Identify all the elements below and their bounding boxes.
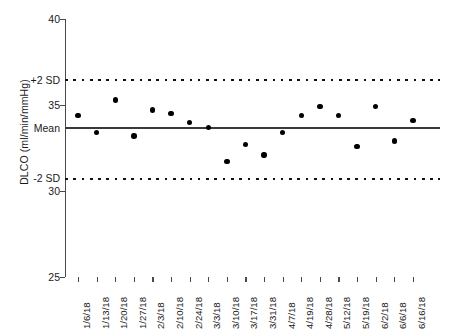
y-tick-label-35: 35 bbox=[14, 100, 60, 111]
data-point[interactable] bbox=[150, 107, 155, 112]
x-tick-label: 5/12/18 bbox=[342, 297, 352, 329]
y-axis-label-column: 40 +2 SD 35 Mean -2 SD 30 25 bbox=[14, 0, 60, 332]
data-point[interactable] bbox=[187, 120, 192, 125]
x-tick-label: 1/13/18 bbox=[101, 297, 111, 329]
x-tick-label: 6/6/18 bbox=[398, 302, 408, 329]
x-tick-label: 4/28/18 bbox=[324, 297, 334, 329]
y-tick-label-25: 25 bbox=[14, 272, 60, 283]
data-point[interactable] bbox=[373, 104, 378, 109]
data-point[interactable] bbox=[317, 104, 322, 109]
y-tick-35 bbox=[60, 105, 65, 106]
x-tick-label: 1/20/18 bbox=[119, 297, 129, 329]
x-tick-mark bbox=[320, 277, 321, 282]
data-point[interactable] bbox=[224, 159, 229, 164]
x-tick-label: 3/31/18 bbox=[268, 297, 278, 329]
x-tick-label: 3/3/18 bbox=[212, 302, 222, 329]
data-point[interactable] bbox=[280, 130, 285, 135]
x-tick-mark bbox=[134, 277, 135, 282]
x-tick-mark bbox=[190, 277, 191, 282]
x-tick-mark bbox=[97, 277, 98, 282]
y-tick-30 bbox=[60, 191, 65, 192]
x-tick-mark bbox=[208, 277, 209, 282]
x-tick-label: 2/3/18 bbox=[156, 302, 166, 329]
y-tick-40 bbox=[60, 19, 65, 20]
x-tick-label: 2/24/18 bbox=[194, 297, 204, 329]
data-point[interactable] bbox=[392, 138, 397, 143]
x-tick-mark bbox=[171, 277, 172, 282]
plot-area bbox=[65, 19, 447, 277]
data-point[interactable] bbox=[131, 133, 136, 138]
data-point[interactable] bbox=[336, 113, 341, 118]
levey-jennings-chart: DLCO (ml/min/mmHg) 40 +2 SD 35 Mean -2 S… bbox=[0, 0, 455, 332]
x-tick-label: 4/19/18 bbox=[305, 297, 315, 329]
y-tick-label-40: 40 bbox=[14, 14, 60, 25]
x-tick-label: 5/19/18 bbox=[361, 297, 371, 329]
x-tick-mark bbox=[264, 277, 265, 282]
x-tick-mark bbox=[357, 277, 358, 282]
reference-line-minus-2-sd bbox=[65, 178, 440, 180]
data-point[interactable] bbox=[299, 113, 304, 118]
x-tick-mark bbox=[301, 277, 302, 282]
x-tick-label: 6/16/18 bbox=[417, 297, 427, 329]
y-axis-line bbox=[65, 19, 66, 277]
x-tick-label: 3/10/18 bbox=[231, 297, 241, 329]
data-point[interactable] bbox=[113, 97, 118, 102]
x-tick-label: 4/7/18 bbox=[287, 302, 297, 329]
x-tick-label: 1/27/18 bbox=[138, 297, 148, 329]
y-label-minus-2-sd: -2 SD bbox=[14, 173, 60, 184]
x-tick-mark bbox=[376, 277, 377, 282]
data-point[interactable] bbox=[354, 144, 359, 149]
x-tick-mark bbox=[338, 277, 339, 282]
x-tick-mark bbox=[283, 277, 284, 282]
x-tick-mark bbox=[115, 277, 116, 282]
y-label-plus-2-sd: +2 SD bbox=[14, 75, 60, 86]
data-point[interactable] bbox=[168, 111, 173, 116]
x-tick-mark bbox=[245, 277, 246, 282]
x-tick-label: 2/10/18 bbox=[175, 297, 185, 329]
x-axis: 1/6/181/13/181/20/181/27/182/3/182/10/18… bbox=[65, 277, 447, 332]
data-point[interactable] bbox=[261, 152, 266, 157]
y-tick-label-30: 30 bbox=[14, 186, 60, 197]
x-tick-mark bbox=[413, 277, 414, 282]
x-tick-label: 6/2/18 bbox=[380, 302, 390, 329]
data-point[interactable] bbox=[75, 113, 80, 118]
x-tick-mark bbox=[152, 277, 153, 282]
data-point[interactable] bbox=[243, 142, 248, 147]
data-point[interactable] bbox=[206, 125, 211, 130]
x-tick-label: 1/6/18 bbox=[82, 302, 92, 329]
x-tick-label: 3/17/18 bbox=[249, 297, 259, 329]
x-tick-mark bbox=[394, 277, 395, 282]
data-point[interactable] bbox=[410, 118, 415, 123]
reference-line-plus-2-sd bbox=[65, 79, 440, 81]
data-point[interactable] bbox=[94, 130, 99, 135]
y-label-mean: Mean bbox=[14, 123, 60, 134]
reference-line-mean bbox=[65, 127, 440, 129]
x-tick-mark bbox=[227, 277, 228, 282]
x-tick-mark bbox=[78, 277, 79, 282]
